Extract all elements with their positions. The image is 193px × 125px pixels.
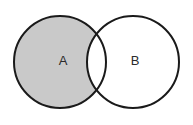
venn-diagram-canvas: A B (0, 0, 193, 125)
venn-diagram-figure: A B (0, 0, 193, 125)
set-a-label: A (59, 53, 68, 68)
set-b-label: B (131, 53, 140, 68)
